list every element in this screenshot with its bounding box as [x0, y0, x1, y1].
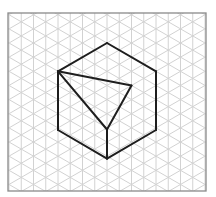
isometric-diagram	[0, 0, 216, 197]
